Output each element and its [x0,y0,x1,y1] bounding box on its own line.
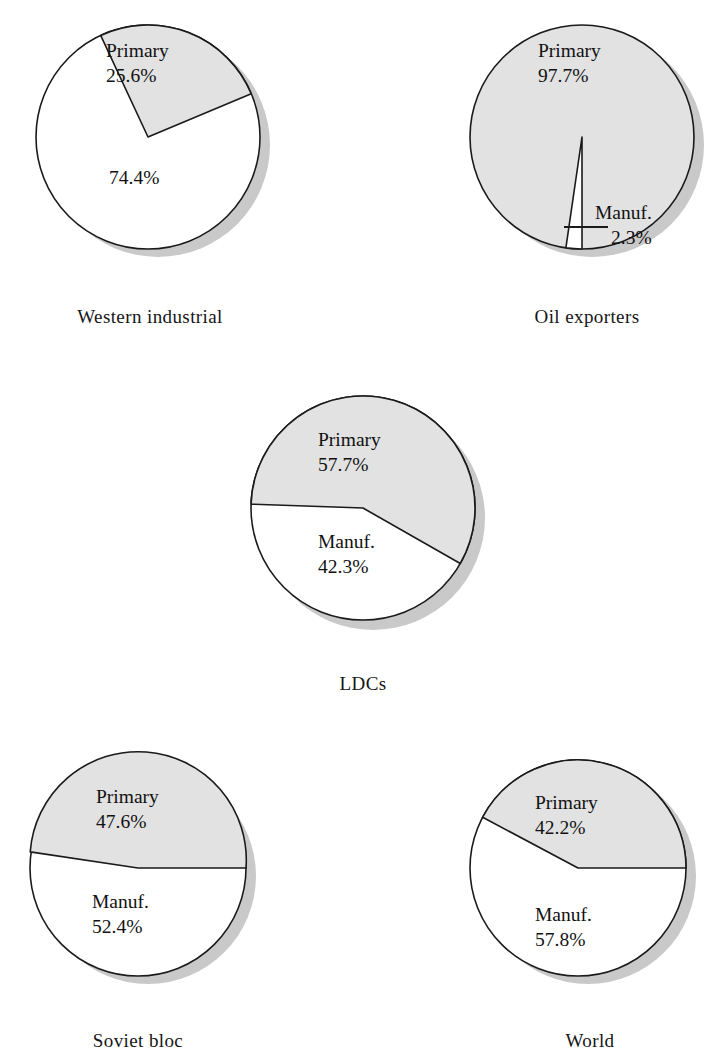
slice-label-manuf: Manuf. 52.4% [92,890,149,940]
pie-chart-ldcs: Primary 57.7% Manuf. 42.3% [233,382,493,642]
slice-label-primary: Primary 97.7% [538,39,601,89]
slice-label-manuf: Manuf. 42.3% [318,530,375,580]
slice-label-primary: Primary 25.6% [106,39,169,89]
pie-chart-western-industrial: Primary 25.6% 74.4% [22,11,282,271]
slice-label-manuf: Manuf. 57.8% [535,903,592,953]
slice-label-primary: Primary 57.7% [318,428,381,478]
pie-world-svg [460,748,710,998]
pie-chart-oil-exporters: Primary 97.7% Manuf. 2.3% [458,11,718,271]
slice-label-manuf: Manuf. 2.3% [595,201,652,251]
pie-chart-soviet-bloc: Primary 47.6% Manuf. 52.4% [18,748,268,998]
slice-label-primary: Primary 42.2% [535,791,598,841]
caption-world: World [500,1030,680,1052]
pie-ldcs-svg [233,382,493,642]
slice-label-manuf: 74.4% [109,166,159,191]
caption-oil-exporters: Oil exporters [450,306,724,328]
caption-soviet-bloc: Soviet bloc [18,1030,258,1052]
caption-ldcs: LDCs [243,673,483,695]
pie-chart-figure: Primary 25.6% 74.4% Western industrial P… [0,0,724,1064]
pie-chart-world: Primary 42.2% Manuf. 57.8% [460,748,710,998]
caption-western-industrial: Western industrial [0,306,300,328]
slice-label-primary: Primary 47.6% [96,785,159,835]
